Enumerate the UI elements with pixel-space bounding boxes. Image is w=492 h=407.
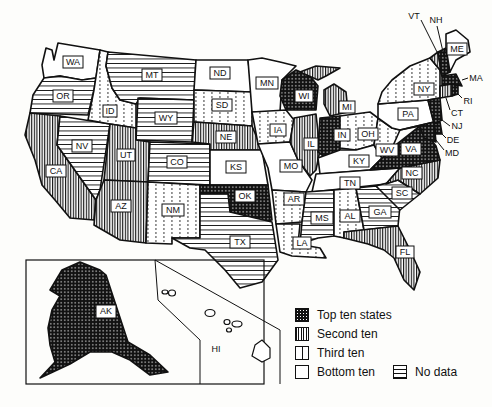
label-tn: TN [340, 177, 360, 189]
callout-nj: NJ [442, 120, 463, 131]
label-wi: WI [295, 90, 313, 102]
svg-text:TN: TN [344, 178, 356, 188]
horizontal-lines-swatch-icon [393, 365, 407, 379]
svg-text:WA: WA [66, 57, 80, 67]
label-ar: AR [284, 193, 304, 205]
blank-swatch-icon [295, 365, 309, 379]
label-tx: TX [230, 236, 250, 248]
label-mt: MT [142, 69, 162, 81]
label-mo: MO [280, 160, 302, 172]
label-or: OR [53, 90, 73, 102]
label-ny: NY [414, 83, 434, 95]
callout-ct: CT [446, 98, 463, 118]
svg-text:UT: UT [120, 150, 132, 160]
svg-text:AK: AK [100, 306, 112, 316]
label-al: AL [340, 210, 360, 222]
label-il: IL [304, 138, 318, 150]
label-mi: MI [339, 101, 355, 113]
vertical-lines-swatch-icon [295, 327, 309, 341]
state-ri[interactable] [452, 84, 458, 96]
callout-ma: MA [462, 73, 483, 83]
legend-item-top: Top ten states [295, 305, 457, 324]
svg-text:NE: NE [220, 132, 233, 142]
svg-text:MN: MN [260, 78, 274, 88]
state-ct[interactable] [440, 84, 452, 98]
dotted-line-swatch-icon [295, 346, 309, 360]
svg-text:SC: SC [396, 188, 409, 198]
label-oh: OH [358, 128, 378, 140]
svg-text:FL: FL [400, 247, 411, 257]
svg-text:CO: CO [170, 157, 184, 167]
legend-item-second: Second ten [295, 324, 457, 343]
legend-label: Bottom ten [317, 365, 375, 379]
label-ne: NE [216, 131, 236, 143]
svg-text:NJ: NJ [452, 121, 463, 131]
svg-text:MS: MS [315, 213, 329, 223]
svg-text:WI: WI [299, 91, 310, 101]
label-co: CO [167, 156, 187, 168]
callout-de: DE [440, 132, 459, 145]
svg-text:GA: GA [373, 207, 386, 217]
label-ga: GA [369, 206, 391, 218]
label-ks: KS [226, 161, 246, 173]
svg-text:IA: IA [274, 125, 283, 135]
svg-text:MD: MD [445, 148, 459, 158]
svg-text:OH: OH [361, 129, 375, 139]
svg-text:TX: TX [234, 237, 246, 247]
label-hi: HI [212, 344, 221, 354]
label-mn: MN [256, 77, 278, 89]
svg-text:NY: NY [418, 84, 431, 94]
label-ak: AK [96, 305, 116, 318]
callout-ri: RI [458, 94, 473, 106]
legend: Top ten states Second ten Third ten Bott… [295, 305, 457, 381]
label-sc: SC [392, 187, 412, 199]
label-ms: MS [311, 212, 333, 224]
svg-text:VT: VT [408, 11, 420, 21]
svg-text:WV: WV [380, 145, 395, 155]
svg-text:DE: DE [447, 135, 460, 145]
svg-text:MO: MO [284, 161, 299, 171]
label-wy: WY [155, 112, 177, 124]
svg-text:WY: WY [159, 113, 174, 123]
svg-text:IL: IL [307, 139, 315, 149]
label-pa: PA [398, 108, 418, 120]
svg-text:PA: PA [402, 109, 413, 119]
legend-label: Third ten [317, 346, 364, 360]
svg-text:SD: SD [216, 100, 229, 110]
svg-text:RI: RI [464, 96, 473, 106]
svg-text:AR: AR [288, 194, 301, 204]
svg-text:NM: NM [166, 205, 180, 215]
label-ia: IA [270, 124, 286, 136]
state-ny[interactable] [378, 58, 440, 104]
svg-text:KS: KS [230, 162, 242, 172]
label-wv: WV [376, 144, 398, 156]
svg-text:MT: MT [146, 70, 159, 80]
label-in: IN [334, 129, 350, 141]
svg-text:ND: ND [214, 68, 227, 78]
label-ut: UT [117, 149, 135, 161]
label-sd: SD [212, 99, 232, 111]
svg-text:NC: NC [406, 168, 419, 178]
svg-text:AL: AL [344, 211, 355, 221]
label-ky: KY [349, 155, 369, 167]
svg-text:CA: CA [50, 166, 63, 176]
svg-text:ID: ID [106, 106, 116, 116]
label-nc: NC [402, 167, 422, 179]
label-nd: ND [210, 67, 230, 79]
svg-text:MA: MA [469, 73, 483, 83]
svg-text:IN: IN [338, 130, 347, 140]
label-la: LA [293, 237, 311, 249]
svg-text:MI: MI [342, 102, 352, 112]
svg-text:ME: ME [450, 44, 464, 54]
dotted-black-swatch-icon [295, 308, 309, 322]
state-ak[interactable] [40, 262, 168, 378]
svg-text:NV: NV [76, 141, 89, 151]
legend-item-bottom: Bottom ten No data [295, 362, 457, 381]
label-nv: NV [72, 140, 92, 152]
svg-text:OK: OK [238, 191, 251, 201]
svg-text:CT: CT [451, 108, 463, 118]
label-wa: WA [63, 56, 83, 68]
svg-text:LA: LA [296, 238, 307, 248]
label-ca: CA [46, 165, 66, 177]
legend-label: Second ten [317, 327, 378, 341]
